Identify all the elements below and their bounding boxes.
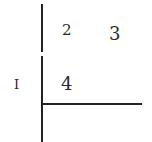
left-label: I [14,78,19,91]
diagram-canvas: I 2 3 4 [0,0,152,142]
cell-label-3: 3 [109,25,120,43]
vertical-divider-lower [41,56,43,142]
horizontal-divider [42,103,142,105]
cell-label-2: 2 [62,23,72,38]
vertical-divider-upper [41,4,43,52]
cell-label-4: 4 [61,75,72,93]
